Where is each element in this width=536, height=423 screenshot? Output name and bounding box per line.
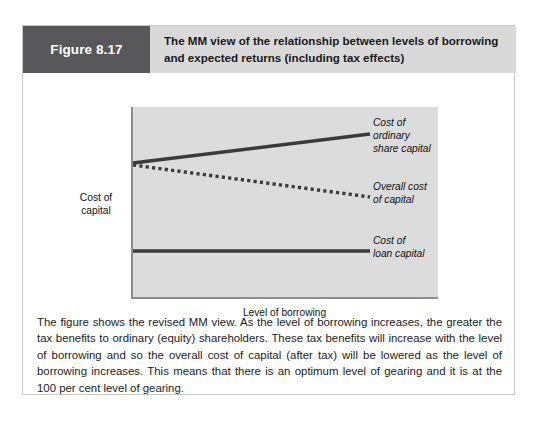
series-line-overall-cost-of-capital <box>133 165 370 197</box>
series-label-overall-cost-of-capital: Overall cost of capital <box>373 180 427 206</box>
figure-number-label: Figure 8.17 <box>50 42 122 57</box>
y-axis-title: Cost of capital <box>66 192 126 217</box>
figure-number-box: Figure 8.17 <box>23 26 150 73</box>
figure-box: Figure 8.17 The MM view of the relations… <box>22 25 515 395</box>
figure-caption: The figure shows the revised MM view. As… <box>37 314 502 396</box>
series-label-cost-of-ordinary-share-capital: Cost of ordinary share capital <box>373 116 438 155</box>
series-label-cost-of-loan-capital: Cost of loan capital <box>373 234 425 260</box>
chart-region: Cost of capital Cost of ordinary share c… <box>23 73 516 308</box>
series-line-cost-of-ordinary-share-capital <box>133 134 370 163</box>
figure-header: Figure 8.17 The MM view of the relations… <box>23 26 516 73</box>
figure-title: The MM view of the relationship between … <box>164 32 509 66</box>
chart-plot-area: Cost of ordinary share capital Overall c… <box>131 107 438 299</box>
